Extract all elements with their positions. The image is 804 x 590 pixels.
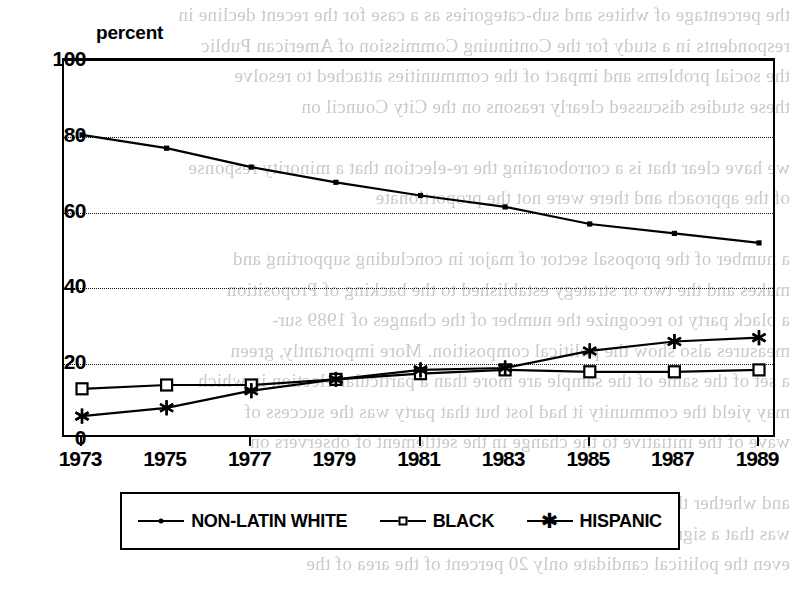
chart-figure: percent 100806040200 1973197519771979198…	[0, 0, 804, 590]
x-axis-label: 1989	[736, 447, 779, 471]
data-point-marker	[333, 180, 338, 185]
dot-marker-icon	[138, 514, 184, 528]
y-axis-label: 60	[24, 199, 86, 223]
marker-glyph	[159, 519, 164, 524]
x-axis-label: 1983	[482, 447, 525, 471]
asterisk-marker-icon: ✱	[527, 514, 573, 528]
y-axis-label: 100	[24, 47, 86, 71]
x-axis-label: 1973	[59, 447, 102, 471]
data-point-marker	[161, 380, 172, 391]
x-axis-label: 1977	[228, 447, 271, 471]
chart-title: percent	[96, 22, 163, 44]
x-axis-tick	[249, 437, 251, 446]
y-axis-label: 80	[24, 123, 86, 147]
x-axis-label: 1975	[143, 447, 186, 471]
data-point-marker	[503, 204, 508, 209]
legend-item[interactable]: BLACK	[380, 511, 495, 532]
series-line	[82, 135, 759, 243]
legend-label: NON-LATIN WHITE	[191, 511, 347, 532]
chart-legend: NON-LATIN WHITEBLACK✱HISPANIC	[120, 492, 680, 550]
legend-label: BLACK	[433, 511, 495, 532]
data-point-marker	[756, 240, 761, 245]
x-axis-tick	[80, 437, 82, 446]
data-point-marker	[584, 366, 595, 377]
x-axis-tick	[757, 437, 759, 446]
data-point-marker	[669, 366, 680, 377]
data-point-marker	[164, 146, 169, 151]
x-axis-label: 1985	[566, 447, 609, 471]
x-axis-tick	[419, 437, 421, 446]
x-axis-tick	[588, 437, 590, 446]
data-point-marker	[672, 231, 677, 236]
y-axis-label: 20	[24, 350, 86, 374]
data-point-marker	[754, 364, 765, 375]
x-axis-label: 1981	[397, 447, 440, 471]
marker-glyph: ✱	[541, 516, 559, 527]
y-axis-label: 40	[24, 274, 86, 298]
x-axis-label: 1979	[313, 447, 356, 471]
data-point-marker	[249, 165, 254, 170]
data-point-marker	[77, 383, 88, 394]
series-lines	[64, 61, 777, 440]
marker-glyph	[398, 517, 407, 526]
legend-item[interactable]: ✱HISPANIC	[527, 511, 662, 532]
x-axis-label: 1987	[651, 447, 694, 471]
data-point-marker	[418, 193, 423, 198]
data-point-marker	[587, 221, 592, 226]
legend-label: HISPANIC	[580, 511, 662, 532]
plot-area	[62, 58, 775, 437]
legend-item[interactable]: NON-LATIN WHITE	[138, 511, 347, 532]
square-marker-icon	[380, 514, 426, 528]
